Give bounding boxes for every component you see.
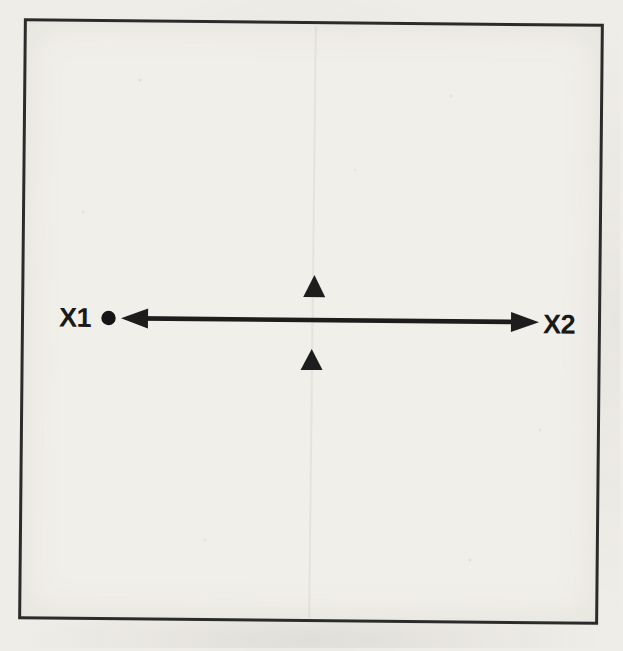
figure-scene: X1 X2 xyxy=(0,0,623,651)
label-x2: X2 xyxy=(543,311,575,338)
label-x1: X1 xyxy=(59,305,89,332)
figure-frame-border xyxy=(18,18,604,625)
